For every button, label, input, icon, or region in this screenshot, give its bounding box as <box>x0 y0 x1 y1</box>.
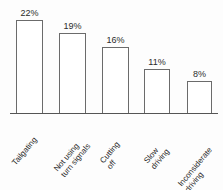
bar-value-label-tailgating: 22% <box>16 8 43 18</box>
category-label-inconsiderate-driving: Inconsiderate driving <box>177 146 221 190</box>
bar-tailgating <box>16 20 43 114</box>
category-label-line1: Tailgating <box>10 135 39 167</box>
category-label-slow-driving: Slow driving <box>143 142 171 171</box>
bar-value-label-not-using-turn-signals: 19% <box>59 21 86 31</box>
bar-not-using-turn-signals <box>59 33 86 114</box>
bar-cutting-off <box>102 47 129 114</box>
plot-area: 22% 19% 16% 11% 8% Tailgating Not using … <box>0 0 223 190</box>
category-label-tailgating: Tailgating <box>11 136 39 167</box>
category-label-cutting-off: Cutting off <box>99 141 128 171</box>
bar-inconsiderate-driving <box>187 81 212 114</box>
bar-slow-driving <box>144 69 170 114</box>
bar-value-label-cutting-off: 16% <box>102 35 129 45</box>
bar-value-label-inconsiderate-driving: 8% <box>187 69 212 79</box>
category-label-not-using-turn-signals: Not using turn signals <box>53 137 92 179</box>
bar-value-label-slow-driving: 11% <box>144 57 170 67</box>
x-axis-line <box>10 113 218 114</box>
bar-chart: 22% 19% 16% 11% 8% Tailgating Not using … <box>0 0 223 190</box>
